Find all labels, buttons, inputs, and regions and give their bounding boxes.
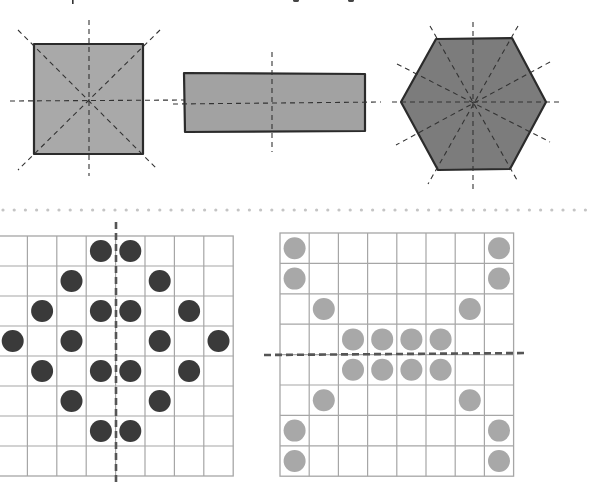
separator-dot (35, 208, 38, 211)
cropped-caption-fragments (72, 0, 354, 4)
separator-dot (13, 208, 16, 211)
grid-dot (119, 420, 141, 442)
grid-dot (488, 450, 510, 472)
separator-dot (539, 208, 542, 211)
separator-dot (337, 208, 340, 211)
separator-dot (80, 208, 83, 211)
grid-dot (119, 360, 141, 382)
separator-dot (438, 208, 441, 211)
grid-dot (459, 389, 481, 411)
grid-dot (459, 298, 481, 320)
separator-dot (248, 208, 251, 211)
separator-dot (416, 208, 419, 211)
grid-dot (488, 237, 510, 259)
left-grid (0, 222, 233, 485)
separator-dot (449, 208, 452, 211)
grid-dot (61, 330, 83, 352)
separator-dot (158, 208, 161, 211)
separator-dot (505, 208, 508, 211)
separator-dot (304, 208, 307, 211)
separator-dot (483, 208, 486, 211)
separator-dot (550, 208, 553, 211)
grid-dot (284, 237, 306, 259)
separator-dot (24, 208, 27, 211)
separator-dot (91, 208, 94, 211)
grid-dot (313, 389, 335, 411)
separator-dot (528, 208, 531, 211)
separator-dot (517, 208, 520, 211)
separator-dot (472, 208, 475, 211)
separator-dot (573, 208, 576, 211)
separator-dot (393, 208, 396, 211)
separator-dot (584, 208, 587, 211)
grid-dot (342, 359, 364, 381)
separator-dot (427, 208, 430, 211)
grid-dot (178, 300, 200, 322)
grid-dot (178, 360, 200, 382)
grid-dot (342, 328, 364, 350)
separator-dot (237, 208, 240, 211)
grid-dot (90, 240, 112, 262)
grid-dot (400, 359, 422, 381)
grid-dot (90, 360, 112, 382)
grid-dot (284, 420, 306, 442)
separator-dot (461, 208, 464, 211)
grid-dot (31, 360, 53, 382)
separator-dot (203, 208, 206, 211)
separator-dot (69, 208, 72, 211)
separator-dot (214, 208, 217, 211)
grid-dot (149, 330, 171, 352)
separator-dot (125, 208, 128, 211)
grid-dot (371, 359, 393, 381)
grid-dot (149, 390, 171, 412)
separator-dot (147, 208, 150, 211)
square-figure (10, 20, 186, 176)
separator-dot (1, 208, 4, 211)
separator-dot (169, 208, 172, 211)
separator-dot (281, 208, 284, 211)
separator-dot (349, 208, 352, 211)
separator-dot (494, 208, 497, 211)
grid-dot (400, 328, 422, 350)
grid-dot (90, 420, 112, 442)
right-grid (264, 233, 528, 476)
grid-dot (2, 330, 24, 352)
symmetry-diagram (0, 0, 594, 485)
grid-dot (90, 300, 112, 322)
separator-dot (113, 208, 116, 211)
separator-dot (181, 208, 184, 211)
separator-dot (293, 208, 296, 211)
hexagon-figure (392, 22, 560, 190)
grid-dot (119, 240, 141, 262)
grids-layer (0, 222, 528, 485)
separator-dot (57, 208, 60, 211)
shapes-layer (10, 20, 560, 190)
grid-dot (61, 390, 83, 412)
separator-dot (225, 208, 228, 211)
grid-dot (61, 270, 83, 292)
grid-dot (208, 330, 230, 352)
grid-dot (313, 298, 335, 320)
separator-dot (270, 208, 273, 211)
grid-dot (371, 328, 393, 350)
grid-dot (430, 359, 452, 381)
grid-dot (31, 300, 53, 322)
grid-dot (284, 268, 306, 290)
separator-dot (561, 208, 564, 211)
separator-dot (382, 208, 385, 211)
grid-dot (488, 268, 510, 290)
separator-dot (326, 208, 329, 211)
grid-dot (488, 420, 510, 442)
rectangle-figure (173, 52, 381, 152)
grid-dot (284, 450, 306, 472)
separator-dot (46, 208, 49, 211)
separator-dot (136, 208, 139, 211)
grid-dot (149, 270, 171, 292)
separator-dot (102, 208, 105, 211)
dotted-separator (1, 208, 587, 211)
separator-dot (371, 208, 374, 211)
grid-dot (119, 300, 141, 322)
separator-dot (315, 208, 318, 211)
grid-dot (430, 328, 452, 350)
separator-dot (259, 208, 262, 211)
